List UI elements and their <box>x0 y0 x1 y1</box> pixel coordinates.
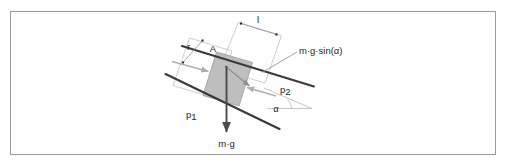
plane-line-upper <box>182 46 314 87</box>
inclined-plane-diagram: l r A m·g·sin(α) p2 α p1 m·g <box>0 0 508 165</box>
figure-root: l r A m·g·sin(α) p2 α p1 m·g <box>0 0 508 165</box>
label-plane-lower-subscript: 1 <box>191 111 196 122</box>
label-force-component: m·g·sin(α) <box>299 45 343 56</box>
leader-line-component <box>262 52 297 73</box>
label-radius-r: r <box>187 41 190 52</box>
dimension-line-l <box>241 24 277 35</box>
label-area-a: A <box>210 43 217 54</box>
label-angle-alpha: α <box>273 103 279 114</box>
angle-arc-alpha <box>288 99 293 109</box>
label-plane-lower: p1 <box>186 109 197 122</box>
pressure-arrow-left <box>172 62 209 72</box>
label-plane-upper-subscript: 2 <box>285 86 290 97</box>
label-length-l: l <box>257 14 259 25</box>
label-force-gravity: m·g <box>218 138 234 149</box>
